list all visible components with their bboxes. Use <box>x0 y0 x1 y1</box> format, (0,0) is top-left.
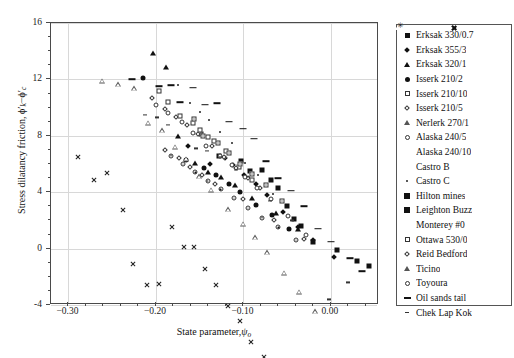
legend-item[interactable]: Leighton Buzz <box>401 203 509 218</box>
legend-item-label: Alaska 240/10 <box>416 147 471 157</box>
data-point <box>234 169 238 170</box>
data-point <box>194 148 198 149</box>
data-point <box>219 156 223 157</box>
x-axis-subscript: o <box>248 330 252 339</box>
data-point <box>246 176 250 177</box>
data-point <box>162 147 168 153</box>
legend-item[interactable]: Nerlerk 270/1 <box>401 116 509 131</box>
data-point <box>177 84 179 86</box>
data-point <box>130 261 136 267</box>
data-point <box>144 282 150 288</box>
x-tick-mark <box>242 302 243 306</box>
legend-item[interactable]: Castro B <box>401 159 509 174</box>
data-point <box>189 102 191 104</box>
legend-item-label: Erksak 330/0.7 <box>416 30 474 40</box>
data-point <box>153 102 158 107</box>
legend-marker-icon <box>401 131 413 143</box>
data-point <box>276 185 281 190</box>
legend-item[interactable]: Isserk 210/2 <box>401 72 509 87</box>
data-point <box>156 281 162 287</box>
data-point <box>346 282 350 283</box>
legend-item[interactable]: Castro C <box>401 174 509 189</box>
data-point <box>241 196 247 202</box>
data-point <box>205 178 210 183</box>
legend-item-label: Castro C <box>416 176 450 186</box>
data-point <box>150 50 156 55</box>
data-point <box>167 84 174 86</box>
x-minor-tick <box>207 304 208 307</box>
legend-item[interactable]: Alaska 240/5 <box>401 130 509 145</box>
legend-item-label: Ticino <box>416 264 440 274</box>
legend-item[interactable]: Oil sands tail <box>401 291 509 306</box>
data-point <box>290 220 294 221</box>
y-axis-subscript-2: c <box>19 87 28 90</box>
data-point <box>280 209 286 215</box>
legend-marker-icon <box>401 102 413 114</box>
data-point <box>191 244 197 250</box>
legend-marker-icon <box>401 117 413 129</box>
x-minor-tick <box>120 304 121 307</box>
legend-marker-icon <box>401 161 413 173</box>
legend-item-label: Hilton mines <box>416 191 465 201</box>
plot-area <box>50 22 378 304</box>
y-tick-label: 12 <box>33 73 43 83</box>
data-point <box>189 87 196 89</box>
data-point <box>255 185 260 190</box>
data-point <box>99 78 105 83</box>
legend-item[interactable]: Toyoura <box>401 276 509 291</box>
legend-item[interactable]: Erksak 355/3 <box>401 43 509 58</box>
y-minor-tick <box>48 93 51 94</box>
data-point <box>252 235 258 240</box>
data-point <box>275 177 282 179</box>
data-point <box>216 140 221 145</box>
data-point <box>205 135 210 140</box>
legend-item-label: Alaska 240/5 <box>416 132 466 142</box>
y-minor-tick <box>48 205 51 206</box>
y-minor-tick <box>48 276 51 277</box>
data-point <box>226 181 231 186</box>
legend-item[interactable]: Ticino <box>401 262 509 277</box>
legend-item[interactable]: Hilton mines <box>401 189 509 204</box>
legend-item-label: Toyoura <box>416 278 448 288</box>
x-minor-tick <box>295 304 296 307</box>
y-tick-mark <box>46 135 50 136</box>
data-point <box>177 101 184 103</box>
data-point <box>276 225 281 230</box>
data-point <box>327 299 331 300</box>
legend-marker-icon <box>401 234 413 246</box>
data-point <box>272 193 274 195</box>
data-point <box>156 86 163 88</box>
data-point <box>207 161 213 167</box>
data-point <box>149 95 155 101</box>
data-point <box>230 163 235 168</box>
data-point <box>169 224 175 230</box>
legend-item[interactable]: Monterey #0 <box>401 218 509 233</box>
legend-item[interactable]: Erksak 320/1 <box>401 57 509 72</box>
data-point <box>131 85 137 90</box>
data-point <box>104 170 110 176</box>
legend-item[interactable]: Reid Bedford <box>401 247 509 262</box>
data-point <box>172 144 178 149</box>
data-point <box>295 226 301 231</box>
y-tick-mark <box>46 191 50 192</box>
legend-item[interactable]: Isserk 210/10 <box>401 86 509 101</box>
data-point <box>231 142 233 144</box>
legend-item[interactable]: Isserk 210/5 <box>401 101 509 116</box>
data-point <box>201 133 206 138</box>
data-point <box>268 200 272 201</box>
legend-item[interactable]: Alaska 240/10 <box>401 145 509 160</box>
y-minor-tick <box>48 50 51 51</box>
y-minor-tick <box>48 234 51 235</box>
data-point <box>226 121 233 123</box>
data-point <box>208 119 210 121</box>
data-point <box>335 248 340 253</box>
y-minor-tick <box>48 290 51 291</box>
data-point <box>175 133 181 138</box>
legend-item-label: Isserk 210/10 <box>416 89 467 99</box>
data-point <box>120 207 126 213</box>
legend-marker-icon <box>401 175 413 187</box>
data-point <box>201 104 208 106</box>
legend-item[interactable]: Ottawa 530/0 <box>401 232 509 247</box>
legend-item[interactable]: Chek Lap Kok <box>401 305 509 320</box>
data-point <box>263 160 270 162</box>
